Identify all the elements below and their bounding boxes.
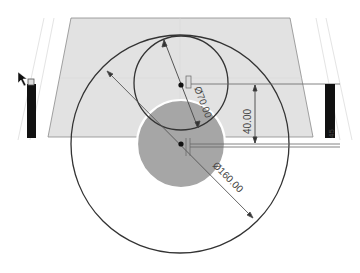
large-circle-center-point[interactable]: [178, 141, 183, 146]
arrow-cursor-icon: [18, 72, 27, 86]
constraint-glyph-icon[interactable]: [186, 76, 191, 88]
side-label[interactable]: 45: [327, 129, 336, 138]
sketch-canvas[interactable]: Ø70.00 Ø160.00 40.00 45: [0, 0, 360, 273]
large-circle-diameter-label[interactable]: Ø160.00: [211, 160, 246, 195]
vertical-offset-label[interactable]: 40.00: [242, 109, 253, 134]
left-side-bar[interactable]: [27, 84, 36, 138]
small-circle-center-point[interactable]: [178, 82, 183, 87]
left-bar-handle-icon[interactable]: [28, 79, 34, 85]
